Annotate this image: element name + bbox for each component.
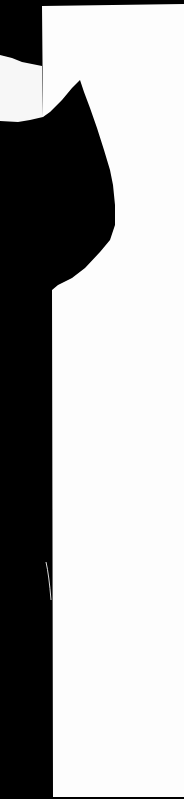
- photo-scene: [0, 0, 184, 799]
- paper-and-silhouette: [0, 0, 184, 799]
- paper-scrap-left: [0, 55, 43, 122]
